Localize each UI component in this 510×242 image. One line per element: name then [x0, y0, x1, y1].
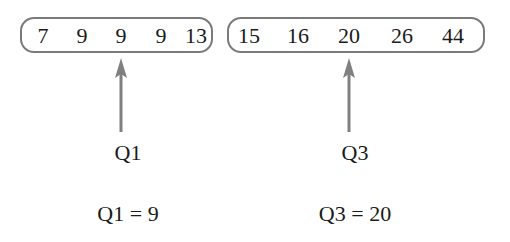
upper-value: 15	[238, 18, 260, 54]
upper-value: 16	[287, 18, 309, 54]
lower-value: 9	[156, 18, 167, 54]
q3-result: Q3 = 20	[319, 201, 391, 227]
upper-value: 20	[338, 18, 360, 54]
lower-value: 7	[38, 18, 49, 54]
lower-value: 9	[77, 18, 88, 54]
q1-result: Q1 = 9	[97, 201, 158, 227]
lower-value: 9	[116, 18, 127, 54]
lower-value: 13	[185, 18, 207, 54]
q1-arrow-icon	[111, 56, 131, 134]
q3-arrow-icon	[339, 56, 359, 134]
q1-label: Q1	[115, 140, 142, 166]
upper-value: 44	[442, 18, 464, 54]
q3-label: Q3	[342, 140, 369, 166]
upper-value: 26	[391, 18, 413, 54]
